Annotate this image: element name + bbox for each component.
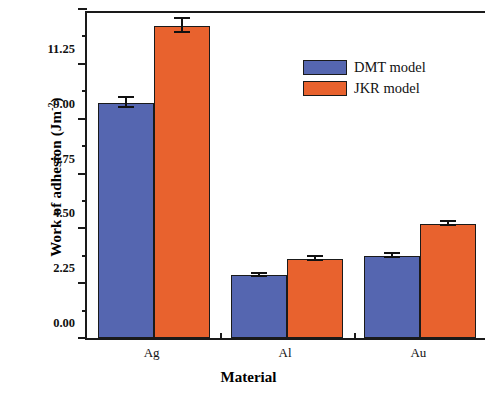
bar-au-dmt xyxy=(364,256,420,338)
error-bar-cap xyxy=(307,259,323,261)
y-axis-tick-label: 11.25 xyxy=(48,42,75,57)
y-axis-tick xyxy=(78,227,87,229)
y-axis-tick-label: 2.25 xyxy=(53,261,75,276)
error-bar-cap xyxy=(251,272,267,274)
y-axis-tick xyxy=(78,63,87,65)
legend-label-dmt: DMT model xyxy=(354,59,426,76)
bar-au-jkr xyxy=(420,224,476,338)
x-axis-title: Material xyxy=(0,369,497,386)
error-bar-cap xyxy=(440,224,456,226)
error-bar-cap xyxy=(174,31,190,33)
y-axis-title-main: Work of adhesion (Jm xyxy=(48,111,64,257)
legend-item-dmt: DMT model xyxy=(303,59,426,76)
bar-al-dmt xyxy=(231,275,287,338)
bar-chart-figure: Work of adhesion (Jm-2) 0.002.254.506.75… xyxy=(0,0,497,394)
error-bar-cap xyxy=(251,275,267,277)
y-axis-minor-tick xyxy=(82,145,87,147)
legend-swatch-dmt xyxy=(303,60,347,75)
error-bar-cap xyxy=(440,220,456,222)
y-axis-tick xyxy=(78,173,87,175)
y-axis-minor-tick xyxy=(82,200,87,202)
error-bar-cap xyxy=(118,106,134,108)
y-axis-tick-label: 4.50 xyxy=(53,207,75,222)
legend-swatch-jkr xyxy=(303,81,347,96)
bar-ag-jkr xyxy=(154,26,210,338)
x-axis-tick-label-al: Al xyxy=(279,345,292,361)
y-axis-minor-tick xyxy=(82,310,87,312)
legend-item-jkr: JKR model xyxy=(303,80,426,97)
error-bar-cap xyxy=(307,255,323,257)
y-axis-tick-label: 13.50 xyxy=(47,0,75,2)
bar-ag-dmt xyxy=(98,103,154,338)
error-bar-cap xyxy=(384,252,400,254)
chart-legend: DMT model JKR model xyxy=(303,59,426,97)
y-axis-tick-label: 6.75 xyxy=(53,152,75,167)
x-axis-tick xyxy=(220,333,222,340)
y-axis-tick-label: 9.00 xyxy=(53,97,75,112)
y-axis-title: Work of adhesion (Jm-2) xyxy=(47,27,65,327)
y-axis-minor-tick xyxy=(82,90,87,92)
y-axis-tick xyxy=(78,8,87,10)
x-axis-tick-label-au: Au xyxy=(410,345,426,361)
y-axis-minor-tick xyxy=(82,35,87,37)
bar-al-jkr xyxy=(287,259,343,338)
y-axis-tick xyxy=(78,337,87,339)
x-axis-tick-label-ag: Ag xyxy=(144,345,160,361)
error-bar-cap xyxy=(384,256,400,258)
y-axis-tick xyxy=(78,118,87,120)
y-axis-tick-label: 0.00 xyxy=(53,316,75,331)
y-axis-tick xyxy=(78,282,87,284)
legend-label-jkr: JKR model xyxy=(354,80,420,97)
y-axis-minor-tick xyxy=(82,255,87,257)
error-bar-cap xyxy=(118,96,134,98)
error-bar-cap xyxy=(174,17,190,19)
x-axis-tick xyxy=(354,333,356,340)
